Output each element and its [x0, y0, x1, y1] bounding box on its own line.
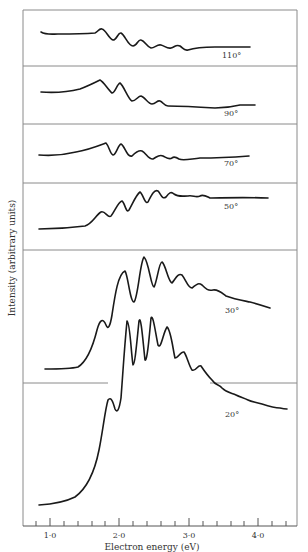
electron-scattering-chart: 110° 90° 70° 50° 30° 20° 1·0 2·0 3·0 4·0: [0, 0, 308, 552]
label-20deg: 20°: [225, 410, 239, 419]
panel-dividers: [23, 66, 297, 383]
x-axis-title: Electron energy (eV): [104, 542, 199, 552]
label-70deg: 70°: [224, 159, 238, 168]
curve-20deg: [39, 317, 287, 505]
curve-90deg: [41, 80, 255, 108]
label-50deg: 50°: [224, 202, 238, 211]
x-tick-labels: 1·0 2·0 3·0 4·0: [44, 531, 265, 540]
chart-frame: [23, 10, 297, 526]
tick-label-2: 2·0: [113, 531, 126, 540]
y-axis-title: Intensity (arbitrary units): [7, 200, 17, 317]
x-axis-ticks: [36, 518, 286, 526]
tick-label-4: 4·0: [252, 531, 265, 540]
tick-label-3: 3·0: [183, 531, 196, 540]
curve-110deg: [41, 29, 250, 50]
label-90deg: 90°: [224, 109, 238, 118]
curves: [39, 29, 287, 505]
label-110deg: 110°: [222, 51, 241, 60]
tick-label-1: 1·0: [44, 531, 57, 540]
curve-70deg: [39, 143, 249, 160]
label-30deg: 30°: [225, 306, 239, 315]
